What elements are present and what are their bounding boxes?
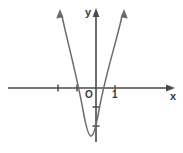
coordinate-plane-svg [0, 0, 183, 153]
origin-label: O [85, 90, 93, 100]
x-axis-label: x [170, 91, 176, 102]
parabola-curve [62, 16, 122, 136]
x-tick-label-one: 1 [112, 90, 118, 100]
parabola-figure: y x O 1 [0, 0, 183, 153]
parabola-left-arrowhead [56, 9, 63, 19]
parabola-right-arrowhead [121, 9, 128, 19]
y-axis-arrowhead [93, 8, 100, 17]
y-axis-label: y [85, 7, 91, 18]
